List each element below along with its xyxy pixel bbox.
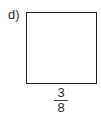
problem-label: d) [8,8,20,21]
square-shape [26,12,97,84]
fraction-denominator: 8 [51,102,71,114]
fraction-numerator: 3 [51,87,71,99]
side-length-fraction: 3 8 [51,87,71,114]
